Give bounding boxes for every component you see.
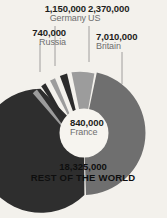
callout-rest-of-the-world: 18,325,000 REST OF THE WORLD (18, 162, 148, 183)
callout-germany: 1,150,000 Germany (2, 4, 86, 24)
callout-france-name: France (70, 128, 130, 138)
callout-russia-name: Russia (0, 38, 66, 48)
callout-britain-name: Britain (96, 42, 164, 52)
callout-france: 840,000 France (70, 118, 130, 138)
callout-britain: 7,010,000 Britain (96, 32, 164, 52)
callout-germany-name: Germany (2, 14, 86, 24)
callout-us-name: US (88, 14, 158, 24)
callout-rest-name: REST OF THE WORLD (18, 173, 148, 184)
callout-russia: 740,000 Russia (0, 28, 66, 48)
callout-us: 2,370,000 US (88, 4, 158, 24)
donut-chart: 1,150,000 Germany 740,000 Russia 2,370,0… (0, 0, 167, 218)
